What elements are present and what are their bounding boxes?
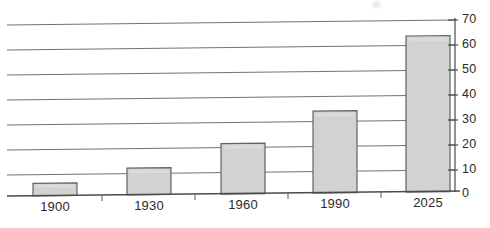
y-tick-label-50: 50	[462, 62, 476, 76]
x-category-label-1960: 1960	[228, 197, 258, 212]
bar-1930	[127, 168, 171, 195]
bar-rect-1990	[313, 111, 357, 194]
bar-2025	[406, 36, 450, 193]
bar-rect-1960	[221, 143, 265, 194]
x-category-label-1990: 1990	[320, 196, 350, 211]
bar-1990	[313, 111, 357, 194]
bar-highlight-1990	[316, 113, 354, 117]
x-category-label-1930: 1930	[134, 198, 164, 213]
y-tick-label-0: 0	[462, 186, 469, 200]
y-tick-label-40: 40	[462, 87, 476, 101]
gridline-40	[7, 95, 455, 100]
bar-highlight-2025	[409, 38, 447, 42]
plot-area	[0, 0, 490, 228]
x-category-label-1900: 1900	[40, 199, 70, 214]
bar-highlight-1900	[36, 185, 74, 188]
gridline-30	[7, 120, 455, 125]
y-tick-label-30: 30	[462, 112, 476, 126]
y-tick-label-70: 70	[462, 12, 476, 26]
bar-rect-2025	[406, 36, 450, 193]
gridline-50	[7, 70, 455, 75]
y-tick-label-60: 60	[462, 37, 476, 51]
y-tick-label-10: 10	[462, 162, 476, 176]
y-tick-label-20: 20	[462, 137, 476, 151]
bar-highlight-1930	[130, 170, 168, 174]
bar-highlight-1960	[224, 145, 262, 149]
gridline-70	[7, 20, 455, 25]
x-category-label-2025: 2025	[413, 195, 443, 210]
bar-1960	[221, 143, 265, 194]
bar-chart: 70 60 50 40 30 20 10 0 1900 1930 1960 19…	[0, 0, 490, 228]
gridline-60	[7, 45, 455, 50]
bar-1900	[33, 183, 77, 196]
